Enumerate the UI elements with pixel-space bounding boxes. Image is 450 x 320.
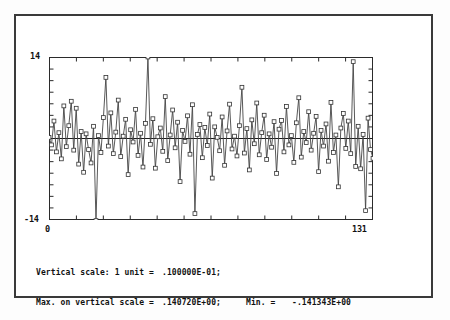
- caption-max-value: .140720E+00;: [162, 298, 246, 308]
- y-axis-min-label: -14: [24, 214, 39, 224]
- y-axis-max-label: 14: [30, 51, 40, 61]
- caption-min-value: -.141343E+00: [292, 298, 351, 308]
- series-plot: [49, 57, 373, 220]
- plot-area: [49, 57, 373, 220]
- x-axis-end-label: 131: [352, 224, 367, 234]
- caption-line-max-min: Max. on vertical scale =.140720E+00;Min.…: [36, 298, 351, 308]
- chart-page: 14 -14 0 131 Vertical scale: 1 unit =.10…: [0, 0, 450, 320]
- caption-line-vertical-scale: Vertical scale: 1 unit =.100000E-01;: [36, 268, 351, 278]
- caption-max-key: Max. on vertical scale =: [36, 298, 162, 308]
- chart-caption: Vertical scale: 1 unit =.100000E-01; Max…: [36, 248, 351, 320]
- caption-vertical-scale-key: Vertical scale: 1 unit =: [36, 268, 162, 278]
- caption-min-key: Min. =: [246, 298, 292, 308]
- x-axis-start-label: 0: [45, 224, 50, 234]
- caption-vertical-scale-value: .100000E-01;: [162, 268, 246, 278]
